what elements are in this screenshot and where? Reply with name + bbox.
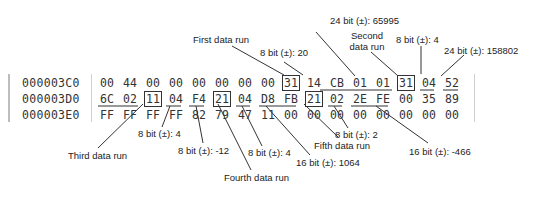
label-third-run: Third data run: [68, 150, 127, 161]
leader-second-offset: [441, 55, 464, 76]
label-second-run-line1: Second: [337, 30, 397, 41]
leader-third-offset: [196, 106, 203, 143]
label-first-length: 8 bit (±): 20: [260, 47, 308, 58]
label-second-offset: 24 bit (±): 158802: [444, 45, 518, 56]
leader-fifth-offset: [376, 106, 428, 143]
label-fifth-offset: 16 bit (±): -466: [409, 146, 471, 157]
label-second-run: Second data run: [337, 30, 397, 52]
ntfs-data-run-diagram: 000003C0 00 44 00 00 00 00 00 00 31 14 C…: [0, 0, 533, 197]
label-second-length: 8 bit (±): 4: [396, 34, 439, 45]
label-fourth-offset: 16 bit (±): 1064: [296, 157, 360, 168]
label-fourth-run: Fourth data run: [224, 172, 289, 183]
label-fifth-run: Fifth data run: [314, 140, 370, 151]
label-second-run-line2: data run: [337, 41, 397, 52]
leader-fifth-run: [304, 104, 338, 137]
leader-lines: [0, 0, 533, 197]
leader-fifth-length: [334, 106, 348, 128]
leader-third-length: [162, 106, 170, 127]
leader-third-run: [98, 104, 143, 148]
leader-second-run: [371, 52, 397, 75]
label-fourth-length: 8 bit (±): 4: [248, 147, 291, 158]
label-third-offset: 8 bit (±): -12: [178, 145, 229, 156]
leader-fourth-length: [242, 106, 262, 146]
label-fifth-length: 8 bit (±): 2: [335, 129, 378, 140]
label-first-run: First data run: [193, 34, 249, 45]
label-third-length: 8 bit (±): 4: [138, 128, 181, 139]
leader-first-length: [284, 62, 303, 75]
label-first-offset: 24 bit (±): 65995: [330, 15, 399, 26]
